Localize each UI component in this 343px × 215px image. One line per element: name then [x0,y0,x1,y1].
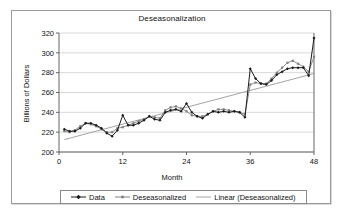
svg-text:300: 300 [41,49,54,58]
chart-legend: DataDeseasonalizedLinear (Deseasonalized… [60,190,307,204]
svg-text:240: 240 [41,108,54,117]
y-axis-ticks: 200220240260280300320 [41,29,59,157]
svg-text:36: 36 [246,157,254,166]
legend-swatch-trend [196,193,211,201]
series-deseasonalized [63,56,315,134]
legend-label-data: Data [89,193,105,202]
legend-label-trend: Linear (Deseasonalized) [214,193,295,202]
svg-text:0: 0 [57,157,61,166]
legend-item-data[interactable]: Data [71,193,105,202]
legend-swatch-data [71,193,86,201]
legend-swatch-deseasonalized [115,193,130,201]
legend-item-trend[interactable]: Linear (Deseasonalized) [196,193,295,202]
svg-text:220: 220 [41,128,54,137]
x-axis-label: Month [12,173,332,182]
svg-text:260: 260 [41,88,54,97]
legend-label-deseasonalized: Deseasonalized [133,193,186,202]
legend-item-deseasonalized[interactable]: Deseasonalized [115,193,186,202]
svg-text:12: 12 [119,157,127,166]
gridlines [59,33,314,152]
svg-text:200: 200 [41,148,54,157]
svg-text:280: 280 [41,68,54,77]
series-data [63,36,316,137]
svg-text:320: 320 [41,29,54,38]
svg-text:48: 48 [310,157,318,166]
chart-container: Deseasonalization Billions of Dollars 20… [11,10,331,204]
svg-text:24: 24 [182,157,190,166]
x-axis-ticks: 012243648 [57,152,318,166]
